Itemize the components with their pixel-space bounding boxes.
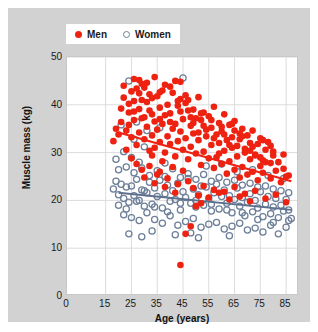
data-point-men [172,189,179,196]
legend-label-women: Women [135,29,171,40]
data-point-men [169,164,176,171]
series-women-points [110,75,294,241]
data-point-men [249,144,256,151]
data-point-women [172,232,178,238]
data-point-men [224,170,231,177]
data-point-men [221,131,228,138]
data-point-men [231,184,238,191]
filled-circle-icon [75,31,82,38]
plot-wrapper [66,56,298,295]
data-point-men [234,153,241,160]
data-point-women [190,215,196,221]
data-point-men [187,114,194,121]
legend-entry-women: Women [123,29,171,40]
data-point-men [283,199,290,206]
data-point-men [162,149,169,156]
data-point-men [208,142,215,149]
data-point-men [205,194,212,201]
data-point-men [231,127,238,134]
y-tick-label: 50 [51,51,62,62]
data-point-men [229,121,236,128]
data-point-women [198,224,204,230]
data-point-women [224,179,230,185]
data-point-men [164,102,171,109]
scatter-plot-svg [67,57,298,295]
data-point-men [190,106,197,113]
x-tick-label: 35 [151,298,162,309]
x-axis-label: Age (years) [66,313,298,324]
data-point-men [195,192,202,199]
data-point-women [162,191,168,197]
data-point-men [177,262,184,269]
data-point-men [231,167,238,174]
data-point-men [131,117,138,124]
data-point-men [180,116,187,123]
data-point-men [218,123,225,130]
data-point-men [138,115,145,122]
data-point-men [180,167,187,174]
data-point-women [278,188,284,194]
data-point-men [187,144,194,151]
data-point-men [123,146,130,153]
data-point-men [200,148,207,155]
data-point-women [224,207,230,213]
y-tick-label: 40 [51,98,62,109]
data-point-women [275,215,281,221]
data-point-men [203,133,210,140]
data-point-men [195,129,202,136]
data-point-women [159,220,165,226]
data-point-men [280,151,287,158]
data-point-women [216,206,222,212]
data-point-women [141,203,147,209]
data-point-men [138,167,145,174]
data-point-men [257,154,264,161]
data-point-men [211,103,218,110]
data-point-women [193,176,199,182]
data-point-women [237,220,243,226]
x-tick-label: 85 [280,298,291,309]
data-point-men [267,143,274,150]
data-point-men [149,95,156,102]
data-point-women [221,226,227,232]
data-point-men [133,142,140,149]
data-point-men [262,195,269,202]
data-point-men [195,137,202,144]
data-point-women [270,186,276,192]
y-tick-label: 10 [51,242,62,253]
data-point-men [126,109,133,116]
data-point-women [201,171,207,177]
data-point-men [229,134,236,141]
data-point-men [270,148,277,155]
data-point-women [175,222,181,228]
data-point-men [167,119,174,126]
data-point-men [120,94,127,101]
data-point-women [149,228,155,234]
data-point-men [131,98,138,105]
x-tick-label: 15 [99,298,110,309]
data-point-men [275,159,282,166]
x-tick-label: 25 [125,298,136,309]
data-point-men [190,185,197,192]
data-point-men [273,167,280,174]
data-point-women [244,227,250,233]
data-point-men [164,133,171,140]
data-point-men [185,156,192,163]
data-point-women [226,233,232,239]
data-point-men [177,79,184,86]
data-point-men [182,135,189,142]
data-point-women [262,183,268,189]
data-point-men [198,110,205,117]
y-tick-label: 20 [51,194,62,205]
data-point-men [136,129,143,136]
y-tick-label: 0 [56,290,62,301]
data-point-men [128,155,135,162]
data-point-men [195,94,202,101]
data-point-men [141,174,148,181]
data-point-women [139,234,145,240]
data-point-men [172,153,179,160]
data-point-men [164,175,171,182]
data-point-women [113,156,119,162]
data-point-men [208,124,215,131]
x-axis-ticks: 01525354555657585 [66,298,298,312]
data-point-men [131,76,138,83]
